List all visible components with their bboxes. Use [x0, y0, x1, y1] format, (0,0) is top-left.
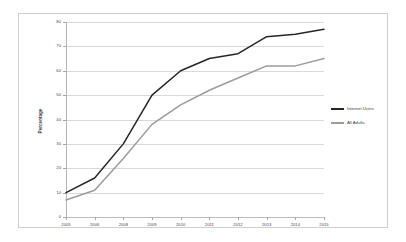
y-axis-tick-label: 80 [56, 20, 61, 24]
x-axis-tick-label: 2015 [319, 223, 328, 227]
y-axis-tick-label: 70 [56, 44, 61, 48]
y-axis-tick-label: 40 [56, 117, 61, 121]
x-axis-tick-label: 2006 [90, 223, 99, 227]
y-axis-tick-label: 0 [59, 215, 61, 219]
legend-swatch-icon [331, 108, 344, 110]
x-axis-tick [324, 217, 325, 220]
y-axis-tick-label: 50 [56, 93, 61, 97]
x-axis-tick-label: 2011 [205, 223, 214, 227]
series-lines [66, 22, 324, 217]
legend-item[interactable]: All Adults [331, 120, 387, 126]
x-axis-tick-label: 2014 [291, 223, 300, 227]
chart-figure: Percentage 01020304050607080 20052006200… [18, 13, 388, 228]
x-axis-tick-label: 2012 [233, 223, 242, 227]
x-axis-tick [209, 217, 210, 220]
series-line [66, 59, 324, 200]
x-axis-tick-label: 2005 [61, 223, 70, 227]
y-axis-title: Percentage [38, 108, 43, 133]
x-axis-tick-label: 2008 [119, 223, 128, 227]
x-axis-tick [66, 217, 67, 220]
x-axis-tick [181, 217, 182, 220]
legend-swatch-icon [331, 122, 344, 124]
x-axis-tick-label: 2009 [147, 223, 156, 227]
x-axis-tick [152, 217, 153, 220]
x-axis-tick [238, 217, 239, 220]
y-axis-tick-label: 10 [56, 191, 61, 195]
legend-label: Internet Users [347, 107, 374, 111]
x-axis-tick-label: 2013 [262, 223, 271, 227]
x-axis-tick [95, 217, 96, 220]
legend-item[interactable]: Internet Users [331, 106, 387, 112]
y-axis-tick-label: 30 [56, 142, 61, 146]
x-axis-tick [123, 217, 124, 220]
legend-label: All Adults [347, 121, 365, 125]
series-line [66, 29, 324, 192]
x-axis-tick-label: 2010 [176, 223, 185, 227]
chart-legend: Internet UsersAll Adults [331, 106, 387, 134]
y-axis-tick-label: 20 [56, 166, 61, 170]
plot-area: 01020304050607080 2005200620082009201020… [66, 22, 324, 217]
x-axis-tick [295, 217, 296, 220]
gridline [66, 217, 324, 218]
x-axis-tick [267, 217, 268, 220]
y-axis-tick-label: 60 [56, 69, 61, 73]
